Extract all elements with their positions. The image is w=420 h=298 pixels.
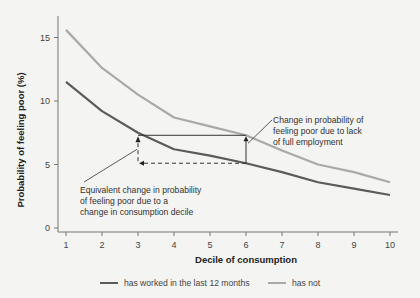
legend-item-not: has not (268, 278, 320, 288)
legend-label-worked: has worked in the last 12 months (124, 278, 250, 288)
y-axis-title: Probability of feeling poor (%) (15, 72, 26, 207)
legend: has worked in the last 12 months has not (0, 276, 420, 288)
leader-line-decile (84, 149, 137, 182)
arrow-left-icon (139, 161, 144, 166)
y-tick-label: 5 (45, 160, 50, 170)
x-tick-label: 10 (385, 240, 395, 250)
arrow-up-icon (136, 136, 141, 142)
x-tick-label: 6 (243, 240, 248, 250)
legend-swatch-worked (100, 282, 118, 284)
y-tick-label: 0 (45, 223, 50, 233)
x-axis-title: Decile of consumption (195, 254, 297, 265)
annotation-decile-text: of feeling poor due to a (80, 196, 168, 206)
legend-label-not: has not (292, 278, 320, 288)
x-tick-label: 8 (315, 240, 320, 250)
legend-swatch-not (268, 282, 286, 284)
annotation-employment-text: feeling poor due to lack (273, 126, 363, 136)
annotation-decile-text: change in consumption decile (80, 207, 193, 217)
x-tick-label: 1 (63, 240, 68, 250)
x-tick-label: 7 (279, 240, 284, 250)
y-tick-label: 10 (40, 96, 50, 106)
x-tick-label: 4 (171, 240, 176, 250)
annotation-employment-text: of full employment (273, 137, 343, 147)
leader-line-employment (248, 120, 272, 143)
annotation-decile-text: Equivalent change in probability (80, 185, 202, 195)
legend-item-worked: has worked in the last 12 months (100, 278, 250, 288)
x-tick-label: 3 (135, 240, 140, 250)
x-tick-label: 5 (207, 240, 212, 250)
line-chart: 05101512345678910 Change in probability … (0, 0, 420, 298)
y-tick-label: 15 (40, 33, 50, 43)
annotation-employment-text: Change in probability of (273, 115, 364, 125)
x-tick-label: 2 (99, 240, 104, 250)
x-tick-label: 9 (351, 240, 356, 250)
series-lines (66, 30, 390, 195)
